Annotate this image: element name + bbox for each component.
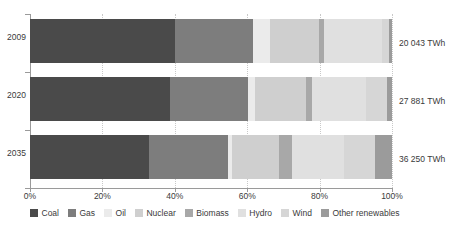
y-axis-label-2009: 2009 — [0, 32, 26, 42]
bar-segment-coal — [30, 77, 170, 121]
bar-segment-gas — [175, 19, 253, 63]
x-axis-tick-label: 0% — [24, 191, 36, 201]
y-axis-tick — [25, 188, 30, 189]
bar-segment-nuclear — [255, 77, 306, 121]
bar-segment-oil — [248, 77, 255, 121]
legend-label: Gas — [79, 208, 95, 218]
x-axis-tick-label: 60% — [239, 191, 256, 201]
legend-swatch-icon — [30, 209, 38, 217]
y-axis-label-2020: 2020 — [0, 90, 26, 100]
legend-item-gas[interactable]: Gas — [68, 208, 95, 218]
gridline — [392, 14, 394, 188]
bar-segment-nuclear — [232, 135, 279, 179]
bar-segment-hydro — [312, 77, 366, 121]
legend-label: Hydro — [249, 208, 272, 218]
legend-swatch-icon — [238, 209, 246, 217]
row-total-2009: 20 043 TWh — [399, 38, 445, 48]
bar-row — [30, 135, 392, 179]
bar-segment-biomass — [279, 135, 292, 179]
legend-item-wind[interactable]: Wind — [281, 208, 312, 218]
y-axis-label-2035: 2035 — [0, 148, 26, 158]
legend-swatch-icon — [68, 209, 76, 217]
bar-segment-coal — [30, 135, 149, 179]
x-axis-line — [30, 188, 393, 189]
x-axis-tick-label: 80% — [311, 191, 328, 201]
bar-segment-hydro — [292, 135, 343, 179]
bar-segment-coal — [30, 19, 175, 63]
legend-item-other-renewables[interactable]: Other renewables — [321, 208, 400, 218]
x-axis-tick-label: 40% — [166, 191, 183, 201]
bar-segment-gas — [149, 135, 228, 179]
legend-label: Biomass — [196, 208, 229, 218]
row-total-2020: 27 881 TWh — [399, 96, 445, 106]
bar-row — [30, 19, 392, 63]
bar-segment-other-renewables — [389, 19, 392, 63]
legend-label: Wind — [293, 208, 312, 218]
legend-item-biomass[interactable]: Biomass — [185, 208, 229, 218]
bar-segment-nuclear — [270, 19, 319, 63]
plot-area — [30, 14, 392, 185]
legend-swatch-icon — [104, 209, 112, 217]
bar-segment-hydro — [324, 19, 383, 63]
legend-label: Oil — [116, 208, 126, 218]
chart-legend: CoalGasOilNuclearBiomassHydroWindOther r… — [30, 205, 440, 221]
stacked-bar-chart: 0%20%40%60%80%100% 2009 2020 2035 20 043… — [0, 0, 454, 227]
legend-item-hydro[interactable]: Hydro — [238, 208, 272, 218]
x-axis-tick-label: 20% — [94, 191, 111, 201]
legend-swatch-icon — [135, 209, 143, 217]
legend-swatch-icon — [281, 209, 289, 217]
legend-swatch-icon — [321, 209, 329, 217]
legend-item-coal[interactable]: Coal — [30, 208, 59, 218]
row-total-2035: 36 250 TWh — [399, 154, 445, 164]
bar-segment-wind — [344, 135, 375, 179]
bar-segment-wind — [366, 77, 387, 121]
legend-label: Coal — [42, 208, 59, 218]
bar-segment-gas — [170, 77, 247, 121]
legend-swatch-icon — [185, 209, 193, 217]
bar-row — [30, 77, 392, 121]
legend-label: Other renewables — [332, 208, 399, 218]
bar-segment-other-renewables — [375, 135, 392, 179]
bar-segment-oil — [253, 19, 271, 63]
bar-segment-other-renewables — [387, 77, 392, 121]
legend-item-oil[interactable]: Oil — [104, 208, 126, 218]
legend-item-nuclear[interactable]: Nuclear — [135, 208, 176, 218]
x-axis-tick-label: 100% — [381, 191, 403, 201]
legend-label: Nuclear — [146, 208, 175, 218]
